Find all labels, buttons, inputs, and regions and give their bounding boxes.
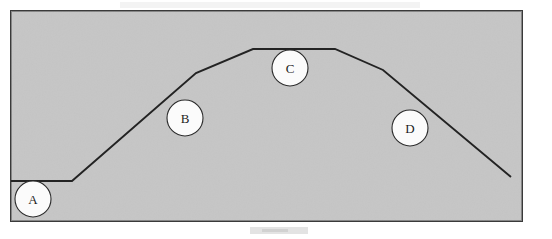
marker-b[interactable]: B: [167, 100, 203, 136]
marker-a-circle[interactable]: [15, 181, 51, 217]
marker-c[interactable]: C: [272, 50, 308, 86]
figure-root: A B C D: [0, 0, 552, 239]
diagram-panel: [11, 11, 522, 221]
marker-d[interactable]: D: [392, 110, 428, 146]
diagram-canvas: A B C D: [0, 0, 552, 239]
marker-c-circle[interactable]: [272, 50, 308, 86]
marker-b-circle[interactable]: [167, 100, 203, 136]
marker-a[interactable]: A: [15, 181, 51, 217]
marker-d-circle[interactable]: [392, 110, 428, 146]
